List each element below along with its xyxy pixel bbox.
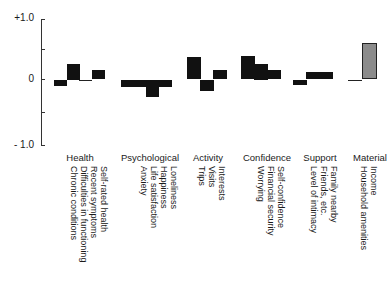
bar-worrying xyxy=(241,56,255,80)
item-label: Difficulties in functioning xyxy=(79,166,89,262)
item-label: Loneliness xyxy=(169,166,179,209)
y-tick-bottom xyxy=(41,145,45,146)
y-tick-label-zero: 0 xyxy=(4,73,34,84)
y-tick-zero xyxy=(41,79,45,80)
bar-visits xyxy=(200,80,214,91)
item-label: Family nearby xyxy=(329,166,339,223)
item-label: Self-confidence xyxy=(276,166,286,228)
bar-loneliness xyxy=(159,80,172,88)
y-tick-upper-mid xyxy=(41,49,45,50)
bar-life-satisfaction xyxy=(134,80,147,88)
item-label: Trips xyxy=(197,166,207,186)
item-label: Chronic conditions xyxy=(69,166,79,240)
bar-self-confidence xyxy=(267,70,281,79)
bar-difficulties-in-functioning xyxy=(67,64,80,80)
bar-income xyxy=(362,43,377,80)
item-label: Financial security xyxy=(266,166,276,236)
item-label: Recent symptoms xyxy=(89,166,99,238)
item-label: Household amenities xyxy=(359,166,369,250)
item-label: Anxiety xyxy=(139,166,149,196)
bar-financial-security xyxy=(254,64,268,80)
zero-baseline xyxy=(348,80,362,81)
bar-chronic-conditions xyxy=(54,80,67,86)
y-tick-label-top: +1.0 xyxy=(4,12,34,23)
y-axis-line xyxy=(41,19,42,145)
item-label: Worrying xyxy=(256,166,266,202)
item-label: Level of intimacy xyxy=(309,166,319,233)
bar-anxiety xyxy=(121,80,134,88)
item-label: Visits xyxy=(207,166,217,187)
zero-baseline xyxy=(79,80,92,81)
group-label-material: Material xyxy=(335,152,391,163)
bar-happiness xyxy=(146,80,159,98)
item-label: Friends, etc. xyxy=(319,166,329,216)
group-label-health: Health xyxy=(45,152,115,163)
bar-level-of-intimacy xyxy=(293,80,307,85)
item-label: Happiness xyxy=(159,166,169,209)
y-tick-label-bottom: - 1.0 xyxy=(4,139,34,150)
bar-chart: +1.0 0 - 1.0 HealthChronic conditionsDif… xyxy=(0,0,391,296)
y-tick-top xyxy=(41,19,45,20)
item-label: Interests xyxy=(217,166,227,201)
item-label: Income xyxy=(369,166,379,196)
item-label: Life satisfaction xyxy=(149,166,159,228)
y-tick-lower-mid xyxy=(41,112,45,113)
bar-trips xyxy=(187,57,201,79)
bar-friends-etc xyxy=(306,72,320,80)
bar-family-nearby xyxy=(319,72,333,80)
bar-interests xyxy=(213,70,227,79)
item-label: Self-rated health xyxy=(99,166,109,232)
bar-self-rated-health xyxy=(92,70,105,79)
